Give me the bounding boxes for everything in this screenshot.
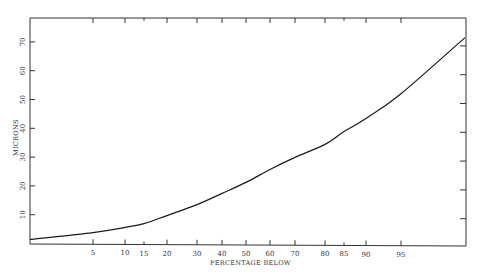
x-tick-label: 10: [121, 249, 130, 257]
y-tick-label: 10: [19, 210, 27, 219]
x-axis-title: PERCENTAGE BELOW: [210, 259, 291, 267]
x-axis-top-ticks: [93, 18, 401, 23]
y-axis-ticks: 10203040506070: [19, 37, 35, 219]
y-axis-right-ticks: [460, 46, 466, 219]
y-tick-label: 50: [19, 95, 27, 104]
x-tick-label: 80: [321, 250, 330, 258]
x-tick-label: 5: [91, 249, 95, 257]
x-axis-ticks: 5101520304050607080859095: [91, 239, 406, 258]
x-tick-label: 85: [340, 250, 349, 258]
y-tick-label: 40: [19, 124, 27, 133]
x-tick-label: 20: [163, 250, 172, 258]
x-tick-label: 60: [266, 250, 275, 258]
x-tick-label: 50: [242, 250, 251, 258]
x-tick-label: 95: [397, 251, 406, 259]
plot-frame: [30, 18, 466, 246]
y-tick-label: 60: [19, 66, 27, 75]
data-line: [30, 38, 465, 240]
chart: 5101520304050607080859095 10203040506070…: [0, 0, 479, 272]
x-tick-label: 30: [193, 250, 202, 258]
y-tick-label: 70: [19, 37, 27, 46]
x-tick-label: 70: [291, 250, 300, 258]
x-tick-label: 40: [218, 250, 227, 258]
y-tick-label: 20: [19, 181, 27, 190]
x-tick-label: 15: [140, 250, 149, 258]
y-tick-label: 30: [19, 153, 27, 162]
y-axis-title: MICRONS: [12, 119, 20, 156]
x-tick-label: 90: [362, 251, 371, 259]
